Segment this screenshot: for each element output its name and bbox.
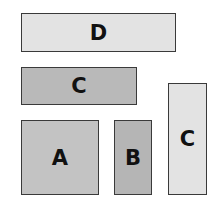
box-b-label: B [125,146,141,170]
box-c-tall-label: C [180,127,195,151]
box-c-tall: C [168,83,207,195]
box-d-label: D [90,21,107,45]
box-c-wide: C [21,67,137,105]
box-b: B [114,120,152,195]
box-c-wide-label: C [71,74,86,98]
box-d: D [21,13,176,52]
box-a: A [21,120,99,195]
box-a-label: A [52,146,68,170]
